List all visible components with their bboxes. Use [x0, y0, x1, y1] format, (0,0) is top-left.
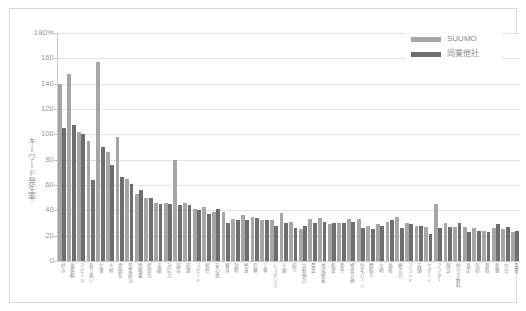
x-tick-label: 住宅ローン: [358, 263, 363, 288]
bar: [492, 228, 496, 261]
x-tick-label: 熱意: [243, 263, 248, 273]
bar: [72, 125, 76, 261]
bar: [313, 223, 317, 261]
bar: [511, 232, 515, 261]
bar: [62, 128, 66, 261]
bar: [241, 215, 245, 261]
bar: [188, 205, 192, 261]
bar: [376, 224, 380, 261]
x-tick-label: 情報量: [136, 263, 141, 278]
x-tick-label: 条件: [339, 263, 344, 273]
bar: [270, 220, 274, 261]
bar: [342, 223, 346, 261]
x-tick-label: 賃貸: [513, 263, 518, 273]
x-tick-label: 間取り: [368, 263, 373, 278]
x-tick-label: 相性: [204, 263, 209, 273]
x-tick-label: 豊富: [310, 263, 315, 273]
bar: [212, 212, 216, 261]
x-tick-label: 地域密着: [320, 263, 325, 283]
x-tick-label: 雰囲気: [117, 263, 122, 278]
legend-swatch-icon: [411, 52, 441, 57]
bar: [173, 160, 177, 261]
bar: [260, 220, 264, 261]
bar: [386, 222, 390, 261]
bar: [251, 217, 255, 261]
bar: [357, 219, 361, 261]
y-tick-label: 140: [14, 80, 54, 88]
x-tick-label: 安心感: [214, 263, 219, 278]
bar: [91, 180, 95, 261]
bar: [323, 222, 327, 261]
x-tick-label: 売却: [474, 263, 479, 273]
x-tick-label: 価格: [387, 263, 392, 273]
x-tick-label: 実績: [156, 263, 161, 273]
legend-label: SUUMO: [447, 34, 477, 44]
bar: [419, 226, 423, 261]
bar: [487, 232, 491, 261]
x-tick-label: 立地: [378, 263, 383, 273]
bar: [130, 184, 134, 261]
bar: [77, 132, 81, 261]
bar: [236, 220, 240, 261]
bar: [116, 137, 120, 261]
x-tick-label: 営業担当: [127, 263, 132, 283]
x-tick-label: アピール: [79, 263, 84, 283]
x-axis-labels: 好み価値観アピール取り扱い仕事人柄雰囲気営業担当情報量提案力実績対応力誠実知識ス…: [57, 263, 520, 311]
bar: [154, 203, 158, 261]
bar: [400, 228, 404, 261]
bar: [463, 227, 467, 261]
chart-frame: キーワード発生率 180%160140120100806040200 好み価値観…: [9, 8, 517, 303]
bar: [405, 223, 409, 261]
bar: [409, 224, 413, 261]
x-tick-label: 査定: [464, 263, 469, 273]
x-tick-label: スピード: [194, 263, 199, 283]
bar: [265, 220, 269, 261]
bar: [458, 223, 462, 261]
x-tick-label: アフター: [436, 263, 441, 283]
bar: [482, 231, 486, 261]
bar: [318, 218, 322, 261]
bar: [144, 198, 148, 261]
bar: [183, 203, 187, 261]
x-tick-label: 人柄: [108, 263, 113, 273]
bar: [139, 190, 143, 261]
bar: [67, 74, 71, 261]
x-tick-label: 価値観: [69, 263, 74, 278]
x-tick-label: 店舗: [416, 263, 421, 273]
y-tick-label: 60: [14, 181, 54, 189]
bar: [255, 218, 259, 261]
bar: [222, 212, 226, 261]
bar: [231, 219, 235, 261]
bar: [506, 227, 510, 261]
bar: [361, 228, 365, 261]
x-tick-label: 信頼: [252, 263, 257, 273]
y-axis-line: [57, 33, 58, 262]
legend-item-suumo: SUUMO: [411, 33, 497, 45]
x-tick-label: 保証: [445, 263, 450, 273]
bar: [395, 217, 399, 261]
x-tick-label: 資金計画: [349, 263, 354, 283]
bar: [168, 204, 172, 261]
bar: [351, 222, 355, 261]
bar: [294, 228, 298, 261]
bar: [337, 223, 341, 261]
bar: [448, 227, 452, 261]
bar: [193, 209, 197, 261]
bar: [380, 226, 384, 261]
bar: [515, 231, 519, 261]
bar: [226, 223, 230, 261]
bar: [245, 220, 249, 261]
bar: [202, 207, 206, 261]
x-tick-label: レスポンス: [272, 263, 277, 288]
x-tick-label: 買取: [484, 263, 489, 273]
x-tick-label: 中古: [503, 263, 508, 273]
bar: [429, 234, 433, 261]
bar: [299, 229, 303, 261]
bar: [216, 209, 220, 261]
bar: [110, 165, 114, 261]
bar: [434, 204, 438, 261]
legend-label: 同業他社: [447, 49, 479, 59]
x-tick-label: 親身: [223, 263, 228, 273]
x-tick-label: 対応力: [165, 263, 170, 278]
bar: [207, 214, 211, 261]
